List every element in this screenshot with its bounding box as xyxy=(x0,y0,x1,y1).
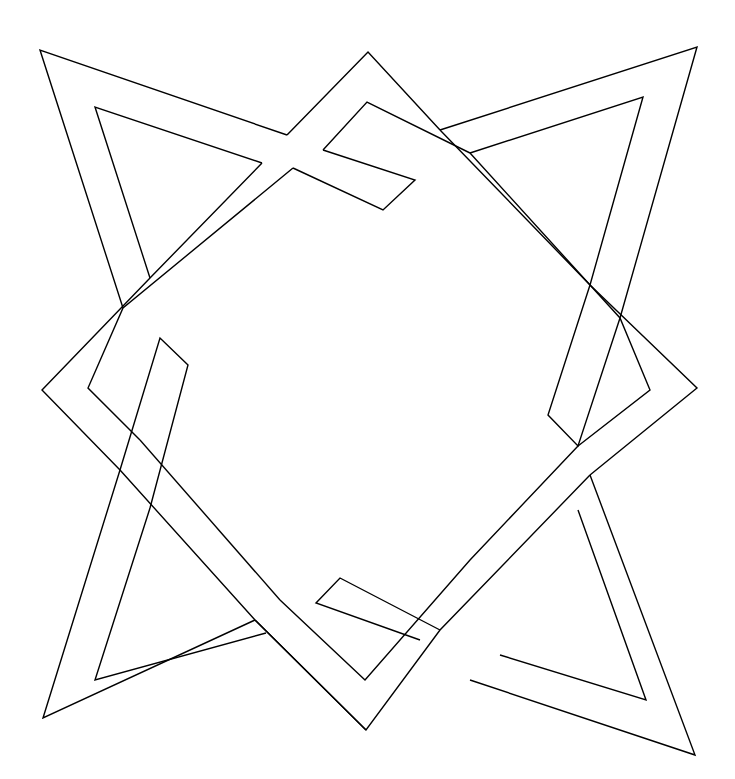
diamond-left-outer-a xyxy=(42,163,262,470)
diamond-left-lower xyxy=(120,470,366,730)
diamond-left-inner-a xyxy=(88,168,293,440)
band-top-left-inner xyxy=(95,107,262,278)
band-top-right-outer xyxy=(440,47,697,318)
band-top-right-inner xyxy=(470,97,643,285)
diamond-left-lower-inner xyxy=(140,440,280,600)
diamond-top-outer xyxy=(287,52,440,135)
band-top-left-end xyxy=(293,150,415,210)
band-bottom-left-outer xyxy=(43,470,255,718)
diamond-bottom-outer xyxy=(255,475,590,730)
diamond-right-inner xyxy=(470,153,650,446)
interlaced-star-figure xyxy=(0,0,735,779)
band-bottom-right-inner xyxy=(500,510,646,700)
star-drawing-canvas xyxy=(0,0,735,779)
band-bottom-right-outer xyxy=(470,475,695,755)
band-top-left-outer xyxy=(40,50,287,308)
band-bottom-right-end xyxy=(316,578,440,640)
